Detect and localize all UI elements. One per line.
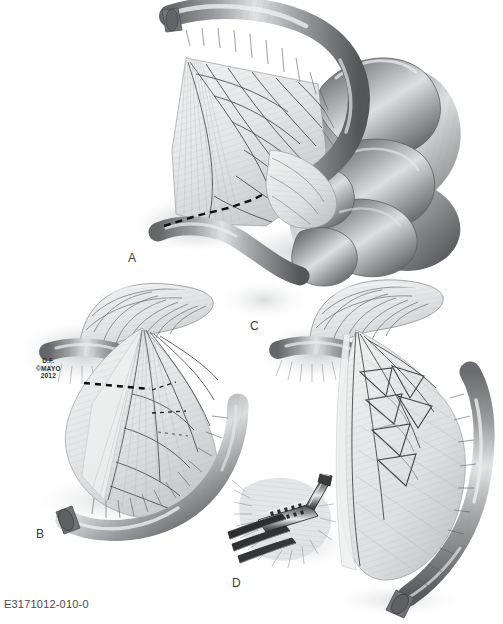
panel-label-b: B: [36, 527, 44, 541]
panel-label-c: C: [250, 319, 259, 333]
panel-label-d: D: [232, 576, 241, 590]
copyright-artist: D.F.: [36, 357, 61, 365]
copyright-mark: D.F. ©MAYO 2012: [36, 357, 61, 380]
illustration-canvas: [0, 0, 503, 624]
copyright-holder: ©MAYO: [36, 365, 61, 373]
panel-label-a: A: [128, 251, 136, 265]
catalog-number: E3171012-010-0: [4, 598, 89, 610]
copyright-year: 2012: [36, 372, 61, 380]
surgical-illustration-figure: A B C D D.F. ©MAYO 2012 E3171012-010-0: [0, 0, 503, 624]
